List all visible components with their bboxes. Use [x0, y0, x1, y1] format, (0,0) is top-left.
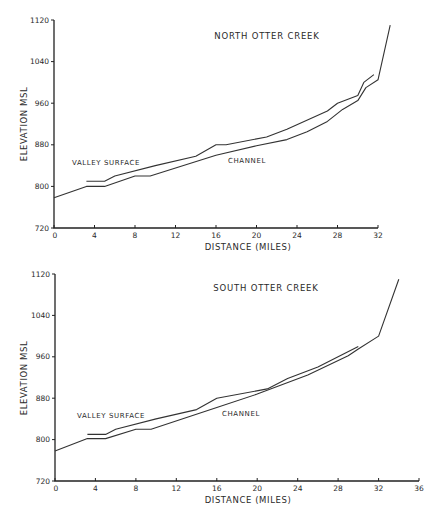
svg-text:720: 720: [36, 477, 51, 486]
channel-line: [55, 279, 399, 451]
x-axis-title: DISTANCE (MILES): [205, 242, 292, 252]
svg-text:960: 960: [36, 352, 51, 361]
svg-text:32: 32: [373, 231, 383, 240]
channel-label: CHANNEL: [222, 410, 260, 418]
svg-text:960: 960: [35, 99, 50, 108]
svg-text:880: 880: [35, 140, 50, 149]
svg-text:1040: 1040: [31, 311, 50, 320]
valley-surface-label: VALLEY SURFACE: [77, 412, 145, 420]
axes: [54, 20, 378, 228]
svg-text:800: 800: [35, 182, 50, 191]
chart-south-otter-creek: SOUTH OTTER CREEK ELEVATION MSL DISTANCE…: [19, 270, 424, 506]
svg-text:16: 16: [212, 484, 222, 493]
x-ticks: 0 4 8 12 16 20 24 28 32 36: [54, 478, 424, 493]
y-ticks: 720 800 880 960 1040 1120: [30, 16, 54, 233]
svg-text:800: 800: [36, 435, 51, 444]
svg-text:16: 16: [211, 231, 221, 240]
svg-text:12: 12: [172, 484, 182, 493]
svg-text:0: 0: [53, 231, 58, 240]
svg-text:28: 28: [333, 231, 343, 240]
axes: [55, 274, 419, 481]
svg-text:24: 24: [293, 484, 303, 493]
svg-text:8: 8: [134, 484, 139, 493]
valley-surface-line: [87, 346, 358, 434]
x-axis-title: DISTANCE (MILES): [205, 495, 292, 505]
svg-text:880: 880: [36, 394, 51, 403]
chart-title: SOUTH OTTER CREEK: [213, 283, 318, 293]
svg-text:1120: 1120: [31, 270, 50, 279]
svg-text:36: 36: [414, 484, 424, 493]
svg-text:20: 20: [252, 484, 262, 493]
svg-text:24: 24: [292, 231, 302, 240]
svg-text:8: 8: [133, 231, 138, 240]
chart-north-otter-creek: NORTH OTTER CREEK ELEVATION MSL DISTANCE…: [19, 16, 390, 253]
y-axis-title: ELEVATION MSL: [19, 87, 29, 162]
channel-label: CHANNEL: [228, 157, 266, 165]
svg-text:20: 20: [252, 231, 262, 240]
svg-text:12: 12: [171, 231, 181, 240]
svg-text:4: 4: [92, 231, 97, 240]
x-ticks: 0 4 8 12 16 20 24 28 32: [53, 225, 383, 240]
figure: NORTH OTTER CREEK ELEVATION MSL DISTANCE…: [0, 0, 440, 517]
svg-text:32: 32: [374, 484, 384, 493]
svg-text:720: 720: [35, 224, 50, 233]
svg-text:1120: 1120: [30, 16, 49, 25]
svg-text:1040: 1040: [30, 57, 49, 66]
svg-text:4: 4: [93, 484, 98, 493]
svg-text:0: 0: [54, 484, 59, 493]
valley-surface-label: VALLEY SURFACE: [72, 159, 140, 167]
channel-line: [54, 25, 390, 198]
y-ticks: 720 800 880 960 1040 1120: [31, 270, 55, 486]
y-axis-title: ELEVATION MSL: [19, 341, 29, 416]
chart-title: NORTH OTTER CREEK: [214, 31, 319, 41]
svg-text:28: 28: [333, 484, 343, 493]
